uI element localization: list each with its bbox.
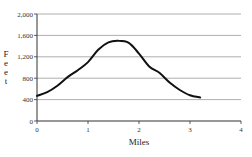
x-tick-label: 4: [239, 126, 243, 134]
gridlines: [37, 14, 241, 100]
y-tick-label: 1,200: [17, 53, 33, 61]
x-tick-label: 2: [137, 126, 141, 134]
y-tick-label: 400: [23, 96, 34, 104]
x-tick-label: 1: [86, 126, 90, 134]
y-axis-title: Feet: [3, 49, 8, 86]
y-tick-label: 1,600: [17, 32, 33, 40]
y-axis-title-letter: t: [5, 76, 8, 86]
x-axis-ticks: 01234: [35, 121, 243, 134]
y-axis-ticks: 04008001,2001,6002,000: [17, 11, 37, 126]
x-tick-label: 3: [188, 126, 192, 134]
x-axis-title: Miles: [129, 137, 150, 147]
x-tick-label: 0: [35, 126, 39, 134]
elevation-line: [37, 41, 200, 98]
y-tick-label: 800: [23, 75, 34, 83]
y-tick-label: 0: [30, 118, 34, 126]
y-tick-label: 2,000: [17, 11, 33, 19]
elevation-chart: 04008001,2001,6002,000 01234 Miles Feet: [0, 0, 252, 157]
